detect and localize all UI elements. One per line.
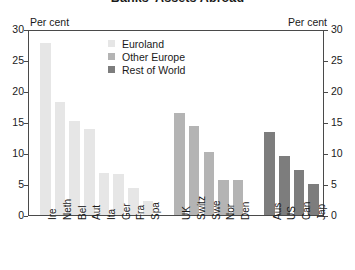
y-tick-label-left-15: 15: [12, 117, 24, 128]
legend-label: Other Europe: [122, 51, 185, 63]
y-tick-label-right-20: 20: [331, 86, 343, 97]
y-tick-mark-left-10: [24, 154, 28, 155]
y-tick-label-right-15: 15: [331, 117, 343, 128]
y-tick-label-right-30: 30: [331, 24, 343, 35]
x-tick-label-nor: Nor: [226, 204, 236, 220]
x-tick-label-us: US: [287, 206, 297, 220]
x-tick-label-den: Den: [241, 202, 251, 220]
y-tick-mark-right-15: [324, 123, 328, 124]
y-tick-label-left-30: 30: [12, 24, 24, 35]
x-tick-label-spa: Spa: [151, 202, 161, 220]
legend-item-euroland: Euroland: [108, 37, 185, 50]
x-tick-label-ita: Ita: [107, 209, 117, 220]
y-tick-mark-left-15: [24, 123, 28, 124]
y-tick-label-right-0: 0: [331, 210, 337, 221]
y-tick-label-right-5: 5: [331, 179, 337, 190]
bar-aut: [84, 129, 95, 215]
legend-label: Rest of World: [122, 64, 185, 76]
y-tick-label-left-20: 20: [12, 86, 24, 97]
y-tick-mark-left-20: [24, 92, 28, 93]
y-tick-mark-left-0: [24, 216, 28, 217]
y-tick-mark-right-10: [324, 154, 328, 155]
legend-label: Euroland: [122, 38, 164, 50]
x-tick-label-uk: UK: [182, 206, 192, 220]
y-tick-mark-right-5: [324, 185, 328, 186]
x-tick-label-neth: Neth: [63, 199, 73, 220]
y-axis-unit-label-left: Per cent: [30, 16, 69, 28]
bar-uk: [174, 113, 185, 215]
y-tick-label-left-25: 25: [12, 55, 24, 66]
chart-title: Banks' Assets Abroad: [0, 0, 355, 5]
y-tick-label-right-10: 10: [331, 148, 343, 159]
x-tick-label-aus: Aus: [273, 203, 283, 220]
x-tick-label-ire: Ire: [48, 208, 58, 220]
x-tick-label-can: Can: [302, 202, 312, 220]
bar-ire: [40, 43, 51, 215]
y-tick-mark-left-25: [24, 61, 28, 62]
y-tick-label-left-10: 10: [12, 148, 24, 159]
y-tick-mark-left-5: [24, 185, 28, 186]
x-tick-label-switz: Switz: [197, 196, 207, 220]
legend-item-rest-of-world: Rest of World: [108, 63, 185, 76]
x-tick-label-fra: Fra: [136, 205, 146, 220]
legend-swatch-icon: [108, 53, 115, 60]
y-tick-label-right-25: 25: [331, 55, 343, 66]
legend-item-other-europe: Other Europe: [108, 50, 185, 63]
x-tick-label-swe: Swe: [212, 201, 222, 220]
chart-legend: EurolandOther EuropeRest of World: [108, 37, 185, 76]
legend-swatch-icon: [108, 66, 115, 73]
y-tick-mark-right-30: [324, 30, 328, 31]
y-tick-mark-right-20: [324, 92, 328, 93]
y-tick-mark-left-30: [24, 30, 28, 31]
y-tick-mark-right-25: [324, 61, 328, 62]
y-axis-unit-label-right: Per cent: [288, 16, 327, 28]
legend-swatch-icon: [108, 40, 115, 47]
chart-figure: Banks' Assets Abroad Per cent Per cent 0…: [0, 0, 355, 270]
x-tick-label-jap: Jap: [317, 204, 327, 220]
x-tick-label-aut: Aut: [92, 205, 102, 220]
x-tick-label-ger: Ger: [122, 203, 132, 220]
x-tick-label-bel: Bel: [78, 206, 88, 220]
